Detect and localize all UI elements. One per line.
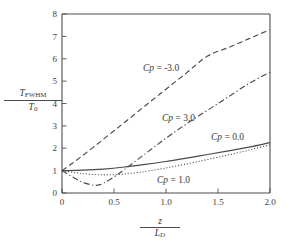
x-axis-label: z LD	[140, 216, 180, 240]
chart-canvas: 0 1 2 3 4 5 6 7 8 0 0.5 1.0 1.5 2.0	[0, 0, 291, 249]
y-tick-label: 7	[53, 32, 58, 42]
y-tick-label: 6	[53, 54, 58, 64]
y-axis-ticks	[62, 14, 67, 193]
plot-frame	[62, 14, 270, 193]
y-tick-label: 0	[53, 188, 58, 198]
annotation-cp-3: Cp = 3.0	[162, 113, 195, 123]
figure-container: 0 1 2 3 4 5 6 7 8 0 0.5 1.0 1.5 2.0 Cp =…	[0, 0, 291, 249]
y-axis-label: TFWHM T0	[4, 88, 62, 114]
y-tick-label: 2	[53, 143, 58, 153]
annotation-cp-0: Cp = 0.0	[211, 132, 244, 142]
x-axis-ticks	[62, 189, 270, 194]
y-tick-label: 5	[53, 76, 58, 86]
y-tick-label: 1	[53, 166, 58, 176]
x-tick-labels: 0 0.5 1.0 1.5 2.0	[60, 197, 276, 207]
annotation-cp-minus-3: Cp = -3.0	[143, 63, 179, 73]
data-curves	[62, 30, 270, 186]
y-tick-label: 3	[53, 121, 58, 131]
annotation-cp-1: Cp = 1.0	[157, 175, 190, 185]
x-tick-label: 1.5	[212, 197, 224, 207]
x-tick-label: 2.0	[264, 197, 276, 207]
x-tick-label: 1.0	[160, 197, 172, 207]
x-tick-label: 0	[60, 197, 65, 207]
x-tick-label: 0.5	[108, 197, 120, 207]
y-tick-label: 8	[53, 9, 58, 19]
